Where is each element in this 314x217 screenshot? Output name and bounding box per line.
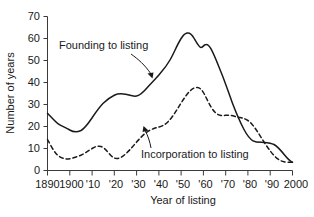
y-tick-label: 60 — [28, 32, 40, 44]
x-tick-label: '10 — [86, 178, 100, 190]
series-line-founding-to-listing — [48, 33, 293, 162]
x-tick-label: '90 — [265, 178, 279, 190]
x-axis-tick-labels: 1890 1900 '10 '20 '30 '40 '50 '60 '70 '8… — [35, 178, 308, 190]
y-tick-label: 40 — [28, 76, 40, 88]
x-tick-label: '60 — [198, 178, 212, 190]
annotation-arrowhead-founding — [148, 73, 154, 79]
x-tick-label: '50 — [176, 178, 190, 190]
y-tick-label: 10 — [28, 142, 40, 154]
annotation-label-incorporation: Incorporation to listing — [141, 148, 249, 160]
x-tick-label: '20 — [109, 178, 123, 190]
y-axis-title: Number of years — [4, 52, 16, 134]
y-tick-label: 0 — [34, 164, 40, 176]
x-axis-ticks — [48, 171, 293, 176]
line-chart: 70 60 50 40 30 20 10 0 1890 19 — [0, 0, 314, 217]
x-tick-label: '30 — [131, 178, 145, 190]
y-tick-label: 70 — [28, 10, 40, 22]
y-tick-label: 20 — [28, 120, 40, 132]
y-axis-ticks — [44, 17, 48, 171]
x-axis-title: Year of listing — [150, 194, 216, 206]
y-tick-label: 50 — [28, 54, 40, 66]
chart-container: 70 60 50 40 30 20 10 0 1890 19 — [0, 0, 314, 217]
annotation-arrow-incorporation — [145, 130, 151, 148]
x-tick-label: '80 — [243, 178, 257, 190]
x-tick-label: '70 — [221, 178, 235, 190]
y-tick-label: 30 — [28, 98, 40, 110]
x-tick-label: 1900 — [59, 178, 83, 190]
x-tick-label: 2000 — [284, 178, 308, 190]
annotation-arrow-founding — [131, 54, 151, 74]
x-tick-label: 1890 — [35, 178, 59, 190]
x-tick-label: '40 — [154, 178, 168, 190]
annotation-label-founding: Founding to listing — [59, 39, 148, 51]
y-axis-tick-labels: 70 60 50 40 30 20 10 0 — [28, 10, 40, 176]
